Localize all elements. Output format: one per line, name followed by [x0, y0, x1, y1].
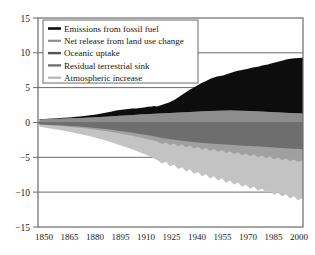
xtick-label-1850: 1850: [35, 232, 54, 242]
chart-svg: 15 10 5 0 −5 −10 −15 1850 1865 1880 1895…: [0, 0, 315, 255]
xtick-label-1970: 1970: [239, 232, 258, 242]
xtick-label-2000: 2000: [290, 232, 309, 242]
ytick-label-neg15: −15: [15, 223, 30, 233]
xtick-label-1880: 1880: [86, 232, 105, 242]
chart-legend: Emissions from fossil fuel Net release f…: [43, 20, 198, 83]
legend-label-oceanic-uptake: Oceanic uptake: [64, 48, 120, 58]
x-axis-labels: 1850 1865 1880 1895 1910 1925 1940 1955 …: [35, 232, 309, 242]
legend-label-residual-terrestrial-sink: Residual terrestrial sink: [64, 61, 150, 71]
carbon-budget-chart: 15 10 5 0 −5 −10 −15 1850 1865 1880 1895…: [0, 0, 315, 255]
y-axis-labels: 15 10 5 0 −5 −10 −15: [15, 14, 30, 233]
y-tick-marks: [33, 18, 38, 227]
ytick-label-10: 10: [21, 48, 31, 58]
ytick-label-neg5: −5: [20, 153, 30, 163]
ytick-label-15: 15: [21, 14, 31, 24]
ytick-label-0: 0: [25, 118, 30, 128]
ytick-label-5: 5: [25, 83, 30, 93]
xtick-label-1955: 1955: [214, 232, 233, 242]
xtick-label-1910: 1910: [137, 232, 156, 242]
legend-label-fossil-fuel: Emissions from fossil fuel: [64, 24, 159, 34]
xtick-label-1940: 1940: [188, 232, 207, 242]
legend-label-land-use-change: Net release from land use change: [64, 36, 184, 46]
ytick-label-neg10: −10: [15, 188, 30, 198]
xtick-label-1925: 1925: [163, 232, 182, 242]
xtick-label-1895: 1895: [112, 232, 131, 242]
legend-label-atmospheric-increase: Atmospheric increase: [64, 73, 142, 83]
xtick-label-1985: 1985: [265, 232, 284, 242]
xtick-label-1865: 1865: [61, 232, 80, 242]
